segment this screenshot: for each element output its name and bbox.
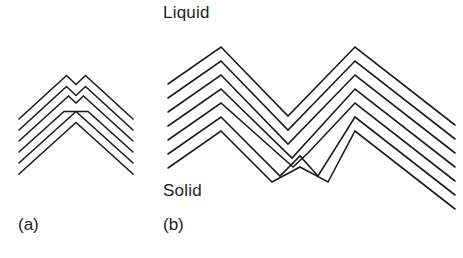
contour-b-7	[168, 131, 455, 209]
contour-b-3	[168, 75, 455, 153]
contour-a-4	[19, 112, 133, 153]
contour-b-1	[168, 47, 455, 125]
figure-root: Liquid Solid (a) (b)	[0, 0, 463, 258]
interface-schematic-svg	[0, 0, 463, 258]
panel-b-contours	[168, 47, 455, 209]
panel-a-contours	[19, 76, 133, 175]
panel-label-a: (a)	[18, 215, 39, 235]
contour-b-6	[168, 117, 455, 195]
phase-label-solid: Solid	[163, 181, 202, 201]
contour-b-2	[168, 61, 455, 139]
panel-label-b: (b)	[163, 215, 184, 235]
phase-label-liquid: Liquid	[163, 3, 210, 23]
contour-b-4	[168, 89, 455, 167]
